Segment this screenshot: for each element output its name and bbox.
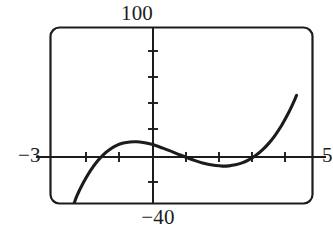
y-max-label: 100 [121,3,153,24]
y-min-label: −40 [141,207,174,228]
x-max-label: 5 [322,145,333,166]
viewing-window-frame [51,28,313,204]
x-min-label: −3 [18,145,41,166]
